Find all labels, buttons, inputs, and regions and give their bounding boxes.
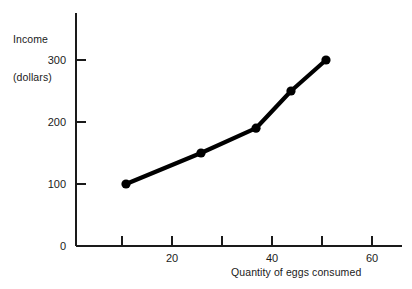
data-point-markers [121,55,330,188]
axis-lines [76,13,402,246]
y-axis-ticks [76,60,86,184]
data-point-3 [286,86,295,95]
data-point-4 [321,55,330,64]
data-point-2 [251,124,260,133]
data-line-series [126,60,326,184]
chart-figure: Income (dollars) Quantity of eggs consum… [0,0,412,289]
x-axis-ticks [122,236,372,246]
plot-area [0,0,412,289]
data-point-0 [121,179,130,188]
data-point-1 [196,148,205,157]
